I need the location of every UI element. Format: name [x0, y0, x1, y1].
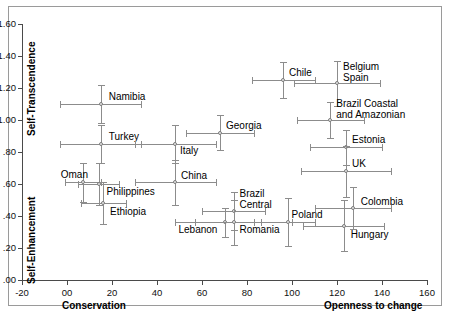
error-cap-bottom	[285, 246, 292, 247]
data-point-label: UK	[352, 158, 366, 169]
error-cap-left	[78, 181, 79, 188]
y-tick-label: .60	[0, 178, 16, 189]
y-tick	[18, 88, 22, 89]
error-cap-right	[382, 144, 383, 151]
data-point-marker	[351, 206, 355, 210]
x-axis-line	[22, 280, 428, 281]
data-point-marker	[99, 102, 103, 106]
y-tick	[18, 216, 22, 217]
data-point-marker	[328, 118, 332, 122]
x-tick	[67, 281, 68, 285]
error-cap-bottom	[327, 138, 334, 139]
data-point-label: Namibia	[109, 91, 146, 102]
error-cap-left	[81, 200, 82, 207]
data-point-marker	[218, 131, 222, 135]
data-point-label: Italy	[180, 145, 198, 156]
error-cap-top	[334, 61, 341, 62]
data-point-marker	[173, 142, 177, 146]
plot-area: .00.20.40.60.801.001.201.401.60-20002040…	[0, 0, 450, 329]
x-axis-title-conservation: Conservation	[62, 300, 126, 311]
x-tick-label: 160	[407, 287, 447, 298]
x-tick	[337, 281, 338, 285]
error-cap-top	[231, 200, 238, 201]
error-cap-top	[343, 130, 350, 131]
data-point-label: Lebanon	[179, 224, 218, 235]
error-cap-left	[202, 208, 203, 215]
error-cap-bottom	[231, 245, 238, 246]
data-point-label: Ethiopia	[110, 206, 146, 217]
y-tick	[18, 184, 22, 185]
x-tick-label: 80	[227, 287, 267, 298]
data-point-label: China	[181, 170, 207, 181]
error-cap-right	[391, 168, 392, 175]
x-tick-label: 60	[182, 287, 222, 298]
data-point-label: Poland	[292, 209, 323, 220]
data-point-marker	[342, 224, 346, 228]
x-tick	[202, 281, 203, 285]
x-tick-label: 120	[317, 287, 357, 298]
error-cap-right	[141, 101, 142, 108]
error-cap-bottom	[96, 205, 103, 206]
error-cap-bottom	[341, 251, 348, 252]
error-cap-top	[80, 163, 87, 164]
y-tick-label: 1.00	[0, 114, 16, 125]
x-tick-label: 20	[92, 287, 132, 298]
y-axis-title-self-transcendence: Self-Transcendence	[26, 42, 37, 136]
error-cap-left	[135, 179, 136, 186]
x-tick-label: -20	[2, 287, 42, 298]
error-cap-left	[261, 219, 262, 226]
data-point-label: Estonia	[352, 134, 385, 145]
error-cap-bottom	[343, 197, 350, 198]
error-cap-left	[297, 117, 298, 124]
error-cap-left	[60, 101, 61, 108]
error-cap-bottom	[217, 150, 224, 151]
error-cap-left	[310, 144, 311, 151]
scatter-chart-figure: .00.20.40.60.801.001.201.401.60-20002040…	[0, 0, 450, 329]
y-tick-label: .40	[0, 210, 16, 221]
y-axis-line	[22, 24, 23, 281]
error-cap-top	[217, 115, 224, 116]
error-cap-top	[343, 146, 350, 147]
x-tick	[22, 281, 23, 285]
error-cap-left	[186, 130, 187, 137]
error-cap-left	[294, 80, 295, 87]
error-cap-top	[172, 125, 179, 126]
error-cap-top	[96, 163, 103, 164]
y-tick	[18, 152, 22, 153]
y-tick-label: .80	[0, 146, 16, 157]
error-cap-left	[175, 219, 176, 226]
error-cap-top	[341, 200, 348, 201]
error-cap-top	[280, 62, 287, 63]
y-tick-label: 1.60	[0, 18, 16, 29]
error-cap-right	[254, 130, 255, 137]
error-cap-left	[303, 223, 304, 230]
x-tick	[292, 281, 293, 285]
error-cap-left	[315, 205, 316, 212]
data-point-marker	[281, 78, 285, 82]
error-cap-bottom	[222, 237, 229, 238]
y-tick-label: 1.40	[0, 50, 16, 61]
error-cap-top	[98, 125, 105, 126]
data-point-marker	[173, 180, 177, 184]
data-point-label: Brazil Coastal and Amazonian	[336, 98, 405, 120]
error-cap-top	[100, 182, 107, 183]
y-tick-label: .00	[0, 274, 16, 285]
y-tick	[18, 120, 22, 121]
data-point-label: Colombia	[361, 196, 403, 207]
x-tick-label: 00	[47, 287, 87, 298]
error-cap-bottom	[280, 98, 287, 99]
error-cap-top	[327, 102, 334, 103]
data-point-marker	[99, 142, 103, 146]
data-point-label: Belgium Spain	[343, 61, 379, 83]
error-cap-top	[350, 187, 357, 188]
data-point-marker	[344, 169, 348, 173]
x-tick	[157, 281, 158, 285]
error-cap-bottom	[172, 205, 179, 206]
x-tick-label: 40	[137, 287, 177, 298]
x-tick	[112, 281, 113, 285]
data-point-label: Philippines	[107, 186, 155, 197]
y-tick	[18, 56, 22, 57]
data-point-label: Brazil Central	[240, 188, 272, 210]
data-point-label: Hungary	[351, 229, 389, 240]
error-cap-top	[172, 160, 179, 161]
